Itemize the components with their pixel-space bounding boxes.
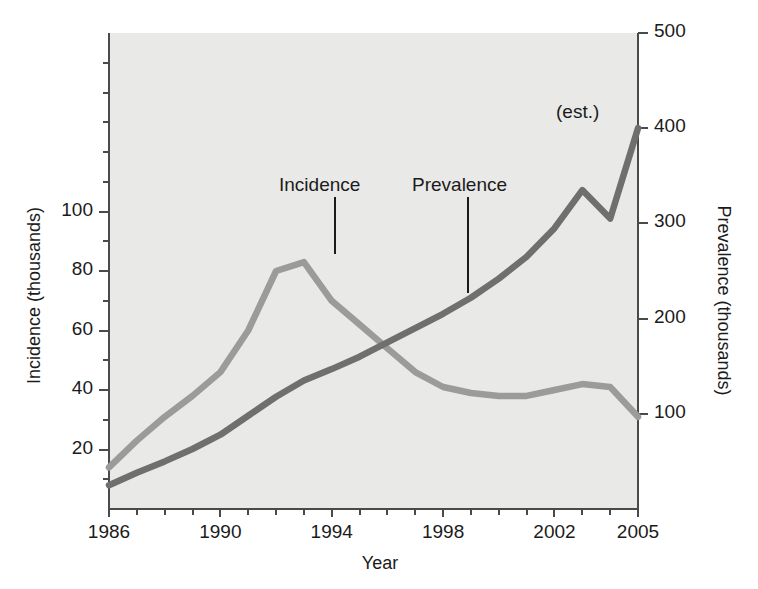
annotation-prevalence: Prevalence <box>412 174 507 196</box>
series-lines <box>0 0 758 589</box>
annotation-incidence: Incidence <box>279 174 360 196</box>
annotation-estimate: (est.) <box>556 101 599 123</box>
left-axis-title: Incidence (thousands) <box>24 166 45 426</box>
chart-figure: 20406080100 100200300400500 198619901994… <box>0 0 758 589</box>
incidence-line <box>109 262 638 467</box>
x-axis-title: Year <box>330 553 430 574</box>
annotation-prevalence-leader-line <box>467 197 469 293</box>
annotation-incidence-leader-line <box>334 197 336 254</box>
right-axis-title: Prevalence (thousands) <box>713 166 734 436</box>
prevalence-line <box>109 128 638 485</box>
